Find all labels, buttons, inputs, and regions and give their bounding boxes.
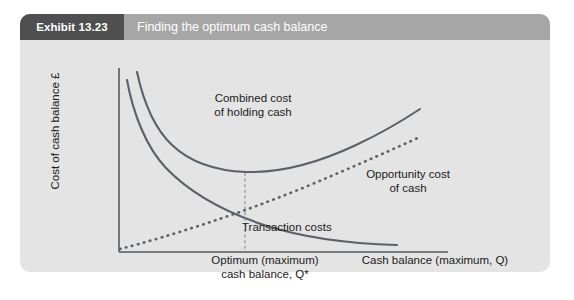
transaction-costs-label: Transaction costs [242,221,382,235]
exhibit-number-label: Exhibit 13.23 [36,21,108,33]
chart-plot-svg [20,40,550,272]
optimum-cash-balance-label: Optimum (maximum) cash balance, Q* [180,254,350,281]
exhibit-panel: Exhibit 13.23 Finding the optimum cash b… [20,14,550,272]
chart-figure: Cost of cash balance £ Combined cost of … [20,40,550,272]
x-axis-label: Cash balance (maximum, Q) [340,254,530,268]
combined-cost-label: Combined cost of holding cash [188,92,318,119]
exhibit-badge: Exhibit 13.23 [20,14,124,40]
y-axis-label: Cost of cash balance £ [49,66,61,196]
exhibit-title: Finding the optimum cash balance [137,14,327,40]
exhibit-header: Exhibit 13.23 Finding the optimum cash b… [20,14,550,40]
opportunity-cost-label: Opportunity cost of cash [348,168,468,195]
